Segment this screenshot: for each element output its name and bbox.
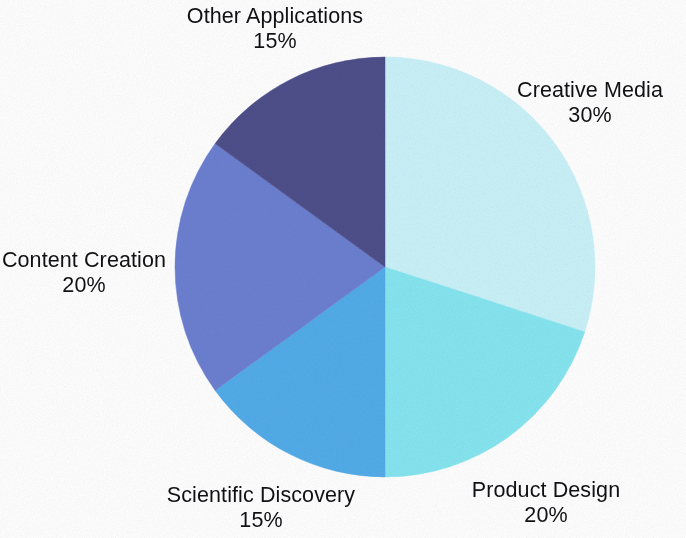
slice-label-value: 15% — [152, 508, 370, 533]
slice-label-value: 15% — [160, 29, 390, 54]
slice-label-value: 20% — [458, 503, 634, 528]
slice-label-value: 30% — [492, 103, 686, 128]
slice-label-creative-media: Creative Media 30% — [492, 78, 686, 129]
slice-label-name: Other Applications — [160, 4, 390, 29]
slice-label-name: Creative Media — [492, 78, 686, 103]
slice-label-scientific-discovery: Scientific Discovery 15% — [152, 483, 370, 534]
slice-label-content-creation: Content Creation 20% — [0, 248, 174, 299]
slice-label-product-design: Product Design 20% — [458, 478, 634, 529]
pie-chart: Other Applications 15% Creative Media 30… — [0, 0, 686, 538]
slice-label-name: Scientific Discovery — [152, 483, 370, 508]
slice-label-name: Product Design — [458, 478, 634, 503]
slice-label-name: Content Creation — [0, 248, 174, 273]
slice-label-value: 20% — [0, 273, 174, 298]
slice-label-other-applications: Other Applications 15% — [160, 4, 390, 55]
